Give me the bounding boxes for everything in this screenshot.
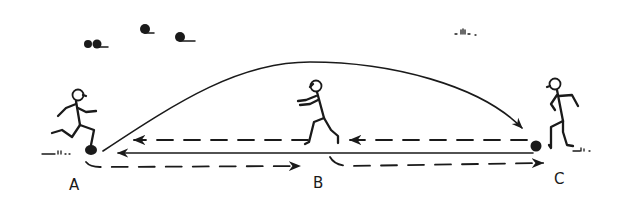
- player-c-figure: [547, 79, 578, 149]
- run-a-to-b-path: [86, 162, 300, 167]
- ball-c: [531, 141, 542, 152]
- player-a-figure: [52, 90, 96, 146]
- ball-a: [85, 145, 97, 155]
- label-b: B: [313, 174, 323, 192]
- drill-diagram: [0, 0, 622, 202]
- label-a: A: [69, 176, 79, 194]
- run-b-to-c-path: [330, 157, 543, 166]
- birds-decoration: [84, 24, 195, 49]
- label-c: C: [554, 170, 564, 188]
- lofted-pass-path: [103, 62, 522, 151]
- player-b-figure: [298, 81, 338, 145]
